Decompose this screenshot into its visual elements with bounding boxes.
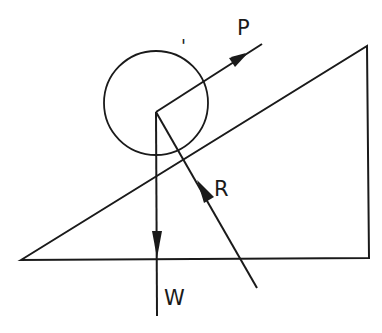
label-w: W [164, 286, 185, 310]
tick-mark: ' [181, 35, 186, 56]
force-diagram: P R W ' [0, 0, 382, 333]
inclined-plane [21, 46, 369, 260]
force-w-line [156, 112, 157, 316]
force-w-arrow-icon [152, 231, 162, 258]
label-p: P [237, 16, 250, 40]
force-r-arrow-icon [197, 180, 214, 203]
label-r: R [214, 177, 229, 201]
